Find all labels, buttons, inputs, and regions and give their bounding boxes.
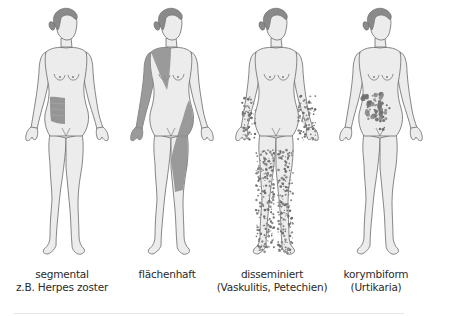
lesion-cluster (375, 104, 377, 106)
lesion-dot-left-leg (272, 160, 274, 162)
lesion-dot-left-arm (245, 105, 247, 107)
lesion-dot-right-leg (281, 241, 283, 243)
lesion-dot-left-leg (268, 234, 269, 235)
lesion-dot-right-leg (284, 168, 287, 171)
lesion-dot-right-arm (299, 132, 301, 134)
lesion-dot-right-leg (278, 223, 280, 225)
lesion-dot-left-leg (267, 247, 268, 248)
lesion-dot-left-leg (255, 172, 258, 175)
lesion-dot-left-leg (262, 177, 264, 179)
lesion-dot-right-leg (279, 195, 280, 196)
lesion-cluster (378, 100, 382, 104)
lesion-dot-right-arm (311, 107, 313, 109)
lesion-dot-left-arm (249, 110, 250, 111)
nipple-right (177, 76, 179, 78)
lesion-dot-left-arm (242, 111, 244, 113)
lesion-dot-right-leg (291, 231, 293, 233)
caption-disseminiert: disseminiert (Vaskulitis, Petechien) (216, 268, 328, 294)
lesion-dot-right-arm (302, 112, 305, 115)
lesion-dot-left-leg (267, 178, 269, 180)
lesion-dot-left-leg (260, 177, 261, 178)
lesion-dot-left-arm (253, 114, 254, 115)
lesion-cluster (371, 102, 375, 106)
figure-flaechenhaft (111, 0, 223, 270)
lesion-dot-right-arm (313, 113, 315, 115)
lesion-dot-right-leg (280, 150, 281, 151)
lesion-satellite (381, 101, 383, 103)
lesion-dot-right-leg (282, 198, 283, 199)
lesion-dot-right-leg (279, 185, 282, 188)
lesion-dot-right-leg (277, 211, 279, 213)
lesion-dot-right-leg (283, 175, 285, 177)
lesion-dot-right-leg (279, 245, 281, 247)
lesion-dot-left-leg (259, 175, 261, 177)
lesion-dot-right-arm (299, 103, 300, 104)
lesion-dot-left-leg (265, 185, 267, 187)
lesion-dot-right-leg (278, 214, 280, 216)
lesion-dot-left-leg (259, 249, 260, 250)
lesion-dot-right-leg (289, 205, 290, 206)
lesion-dot-left-leg (263, 157, 266, 160)
right-hand (410, 127, 422, 141)
caption-title: korymbiform (320, 268, 432, 281)
left-leg (148, 134, 171, 254)
lesion-dot-right-leg (284, 170, 287, 173)
lesion-dot-right-leg (287, 216, 289, 218)
caption-title: disseminiert (216, 268, 328, 281)
lesion-dot-left-leg (258, 165, 260, 167)
lesion-dot-left-arm (249, 139, 251, 141)
lesion-cluster (367, 106, 369, 108)
lesion-dot-right-leg (285, 180, 287, 182)
lesion-dot-left-leg (259, 205, 261, 207)
lesion-dot-right-leg (287, 253, 288, 254)
lesion-dot-left-leg (261, 198, 262, 199)
lesion-dot-right-arm (305, 108, 306, 109)
lesion-dot-left-leg (256, 155, 258, 157)
lesion-dot-left-leg (260, 160, 261, 161)
lesion-dot-left-leg (259, 231, 260, 232)
lesion-dot-left-leg (256, 185, 257, 186)
lesion-dot-left-arm (243, 134, 244, 135)
lesion-dot-left-arm (254, 120, 255, 121)
lesion-dot-right-leg (278, 179, 280, 181)
lesion-dot-left-arm (244, 112, 246, 114)
lesion-cluster (368, 102, 371, 105)
lesion-dot-right-leg (281, 177, 284, 180)
divider (14, 313, 404, 314)
lesion-dot-right-leg (282, 182, 285, 185)
lesion-dot-right-leg (278, 150, 279, 151)
lesion-dot-left-leg (258, 171, 260, 173)
lesion-dot-left-arm (247, 105, 249, 107)
lesion-dot-right-leg (280, 230, 282, 232)
lesion-dot-left-leg (268, 158, 269, 159)
lesion-dot-right-arm (307, 118, 309, 120)
right-hand (96, 127, 108, 141)
lesion-dot-right-leg (284, 244, 285, 245)
lesion-dot-left-leg (271, 192, 272, 193)
lesion-dot-right-leg (290, 217, 292, 219)
lesion-dot-left-leg (263, 196, 265, 198)
lesion-dot-left-leg (259, 186, 260, 187)
lesion-dot-right-leg (283, 212, 285, 214)
lesion-dot-right-leg (286, 251, 287, 252)
lesion-dot-right-leg (287, 155, 290, 158)
lesion-dot-left-arm (254, 133, 256, 135)
lesion-dot-left-leg (258, 239, 260, 241)
lesion-dot-left-arm (242, 130, 245, 133)
lesion-dot-left-arm (247, 119, 250, 122)
lesion-cluster (373, 93, 378, 98)
lesion-dot-right-arm (309, 100, 310, 101)
lesion-dot-right-leg (283, 235, 285, 237)
lesion-dot-right-arm (297, 120, 299, 122)
lesion-dot-right-leg (289, 177, 290, 178)
lesion-dot-right-arm (300, 103, 302, 105)
lesion-dot-left-leg (258, 241, 259, 242)
lesion-dot-left-leg (270, 166, 273, 169)
lesion-dot-right-arm (304, 135, 306, 137)
lesion-dot-right-leg (282, 151, 285, 154)
lesion-dot-right-leg (280, 206, 282, 208)
lesion-dot-right-leg (290, 222, 291, 223)
lesion-dot-right-leg (282, 155, 284, 157)
lesion-dot-right-leg (292, 237, 293, 238)
lesion-dot-right-leg (281, 239, 282, 240)
